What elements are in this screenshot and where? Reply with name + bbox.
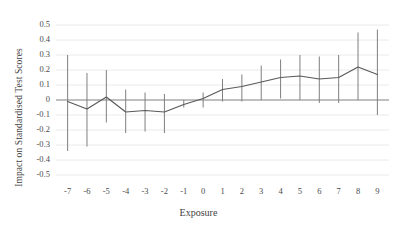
y-tick-label: -0.1 — [24, 109, 50, 119]
x-tick-label: 8 — [350, 186, 366, 196]
y-tick-label: 0.3 — [24, 49, 50, 59]
event-study-chart: Impact on Standardised Test Scores Expos… — [0, 0, 397, 235]
plot-area — [0, 0, 397, 235]
y-tick-label: -0.2 — [24, 124, 50, 134]
x-tick-label: -1 — [176, 186, 192, 196]
x-tick-label: -4 — [118, 186, 134, 196]
x-tick-label: -3 — [137, 186, 153, 196]
y-tick-label: -0.4 — [24, 154, 50, 164]
x-tick-label: -2 — [156, 186, 172, 196]
x-tick-label: 0 — [195, 186, 211, 196]
x-tick-label: -7 — [60, 186, 76, 196]
x-tick-label: 5 — [292, 186, 308, 196]
y-tick-label: -0.3 — [24, 139, 50, 149]
x-tick-label: -5 — [98, 186, 114, 196]
x-tick-label: 3 — [253, 186, 269, 196]
y-tick-label: 0.2 — [24, 64, 50, 74]
x-tick-label: 1 — [215, 186, 231, 196]
y-tick-label: 0.4 — [24, 34, 50, 44]
y-tick-label: -0.5 — [24, 169, 50, 179]
y-tick-label: 0 — [24, 94, 50, 104]
x-tick-label: 9 — [369, 186, 385, 196]
y-tick-label: 0.1 — [24, 79, 50, 89]
x-tick-label: -6 — [79, 186, 95, 196]
y-tick-label: 0.5 — [24, 19, 50, 29]
x-tick-label: 2 — [234, 186, 250, 196]
x-tick-label: 7 — [331, 186, 347, 196]
x-tick-label: 6 — [311, 186, 327, 196]
x-tick-label: 4 — [273, 186, 289, 196]
